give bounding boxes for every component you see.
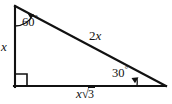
side-label-hypotenuse: 2x	[89, 29, 101, 42]
angle-label-60: 60°	[22, 16, 38, 29]
angle-label-30: 30°	[112, 67, 128, 80]
degree-symbol-icon: °	[125, 64, 129, 74]
degree-symbol-icon: °	[35, 13, 39, 23]
side-label-vertical-leg: x	[1, 40, 7, 53]
radicand-value: 3	[88, 87, 95, 101]
hypotenuse-variable: x	[96, 28, 102, 43]
angle-60-value: 60	[22, 15, 35, 29]
right-angle-marker-icon	[15, 74, 27, 86]
side-label-base: x√3	[76, 87, 95, 101]
angle-30-value: 30	[112, 66, 125, 80]
base-radical: √3	[82, 87, 95, 101]
geometry-diagram: x 2x x√3 60° 30°	[0, 0, 172, 104]
